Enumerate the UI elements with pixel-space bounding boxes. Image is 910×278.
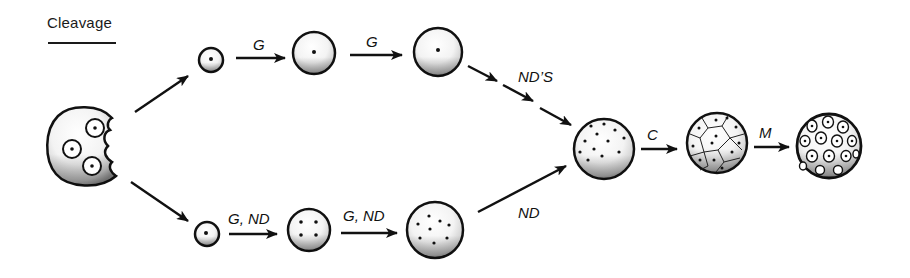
cell-top-2 <box>293 32 335 74</box>
arrow-nds-step-3 <box>540 108 571 125</box>
fertilized-egg <box>47 107 116 185</box>
cell-top-1 <box>199 48 223 72</box>
cell-cellularised <box>687 113 747 173</box>
cell-bottom-3 <box>407 202 463 258</box>
edge-label-g: G <box>366 33 378 50</box>
cell-bottom-1 <box>195 222 219 246</box>
edge-label-nd: ND <box>518 204 540 221</box>
edge-label-nds: ND’S <box>518 68 553 85</box>
cleavage-diagram: Cleavage <box>0 0 910 278</box>
edge-label-m: M <box>759 124 772 141</box>
cell-differentiated <box>797 114 861 178</box>
cell-syncytium <box>574 119 634 179</box>
edge-label-g-nd: G, ND <box>343 207 385 224</box>
edge-label-g-nd: G, ND <box>228 210 270 227</box>
cell-top-3 <box>414 28 462 76</box>
edge-label-g: G <box>253 36 265 53</box>
diagram-canvas <box>0 0 910 278</box>
arrow-egg-to-bottom <box>131 182 188 221</box>
edge-label-c: C <box>647 126 658 143</box>
cell-bottom-2 <box>288 209 330 251</box>
arrow-nds-step-1 <box>468 66 497 81</box>
arrow-nds-step-2 <box>503 85 533 101</box>
arrow-egg-to-top <box>135 76 188 112</box>
